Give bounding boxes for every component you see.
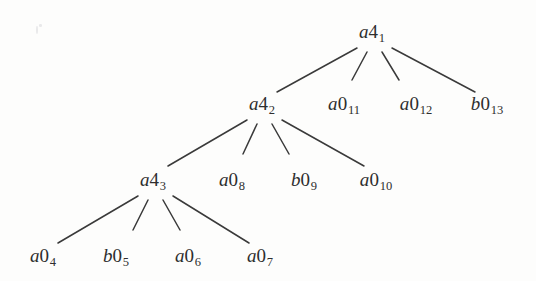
node-subscript: 8 [239,179,245,193]
node-subscript: 3 [160,179,166,193]
node-digit: 0 [185,245,195,266]
node-base-letter: a [30,245,40,266]
node-subscript: 5 [123,255,129,269]
node-digit: 0 [229,169,239,190]
tree-edge [382,52,399,80]
node-base-letter: b [103,245,113,266]
node-subscript: 7 [267,255,273,269]
tree-edge [243,124,257,154]
node-base-letter: a [328,93,338,114]
node-digit: 0 [113,245,123,266]
tree-edge [168,120,247,166]
node-base-letter: a [360,169,370,190]
node-subscript: 2 [269,103,275,117]
scan-speck [39,24,42,27]
node-digit: 4 [150,169,160,190]
tree-node-a4-3: a43 [140,170,166,193]
tree-node-a0-8: a08 [219,170,245,193]
tree-node-b0-13: b013 [471,94,503,117]
node-digit: 0 [338,93,348,114]
node-subscript: 13 [491,103,504,117]
node-base-letter: a [400,93,410,114]
node-base-letter: a [219,169,229,190]
tree-node-b0-5: b05 [103,246,129,269]
node-base-letter: a [359,21,369,42]
node-base-letter: a [140,169,150,190]
tree-edge [58,196,138,243]
node-subscript: 11 [348,103,360,117]
tree-edge [173,196,249,243]
node-subscript: 10 [380,179,393,193]
tree-node-a0-11: a011 [328,94,360,117]
node-digit: 0 [480,93,490,114]
scan-speck [36,26,38,34]
tree-edge [277,48,357,92]
node-base-letter: b [291,169,301,190]
tree-edge [352,52,367,80]
tree-node-a0-7: a07 [247,246,273,269]
node-subscript: 6 [195,255,201,269]
tree-node-a0-12: a012 [400,94,432,117]
node-digit: 0 [301,169,311,190]
tree-node-a0-4: a04 [30,246,56,269]
tree-node-a0-10: a010 [360,170,392,193]
tree-edge [392,48,475,92]
tree-edge [163,200,180,230]
tree-node-a0-6: a06 [175,246,201,269]
tree-edge-layer [0,0,536,281]
node-digit: 4 [369,21,379,42]
node-base-letter: b [471,93,481,114]
node-digit: 0 [409,93,419,114]
tree-node-a4-2: a42 [249,94,275,117]
node-base-letter: a [249,93,259,114]
node-subscript: 4 [50,255,56,269]
tree-edge [272,124,289,154]
node-subscript: 12 [420,103,433,117]
node-base-letter: a [247,245,257,266]
node-base-letter: a [175,245,185,266]
node-digit: 4 [259,93,269,114]
node-subscript: 1 [379,31,385,45]
node-digit: 0 [40,245,50,266]
node-digit: 0 [369,169,379,190]
node-subscript: 9 [311,179,317,193]
node-digit: 0 [257,245,267,266]
tree-node-b0-9: b09 [291,170,317,193]
tree-edge [282,120,364,166]
tree-edge [133,200,148,230]
tree-node-a4-1: a41 [359,22,385,45]
tree-diagram-figure: a41a42a011a012b013a43a08b09a010a04b05a06… [0,0,536,281]
